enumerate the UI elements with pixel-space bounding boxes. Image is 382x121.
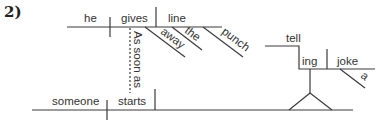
gerund-phrase: tell ing joke a [265, 32, 375, 110]
word-gives: gives [121, 12, 148, 24]
word-tell: tell [286, 32, 301, 44]
word-line: line [168, 12, 186, 24]
word-joke: joke [336, 55, 358, 67]
word-as-soon-as: As soon as [132, 31, 144, 88]
word-punch: punch [220, 25, 252, 53]
word-starts: starts [118, 95, 146, 107]
sentence-diagram: he gives line away the punch As soon as … [0, 0, 382, 121]
word-a: a [359, 69, 372, 83]
stilt-triangle [289, 93, 332, 110]
word-ing: ing [302, 55, 317, 67]
word-he: he [84, 12, 97, 24]
subordinate-clause: someone starts [32, 89, 353, 120]
word-someone: someone [52, 95, 99, 107]
main-clause: he gives line away the punch [67, 7, 252, 57]
word-away: away [159, 25, 188, 51]
gerund-step-line [265, 46, 375, 69]
